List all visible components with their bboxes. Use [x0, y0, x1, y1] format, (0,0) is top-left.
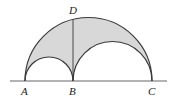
- label-A: A: [20, 85, 28, 97]
- label-B: B: [69, 85, 76, 97]
- label-D: D: [68, 4, 77, 16]
- label-C: C: [148, 85, 156, 97]
- arbelos-diagram: A B C D: [0, 0, 172, 100]
